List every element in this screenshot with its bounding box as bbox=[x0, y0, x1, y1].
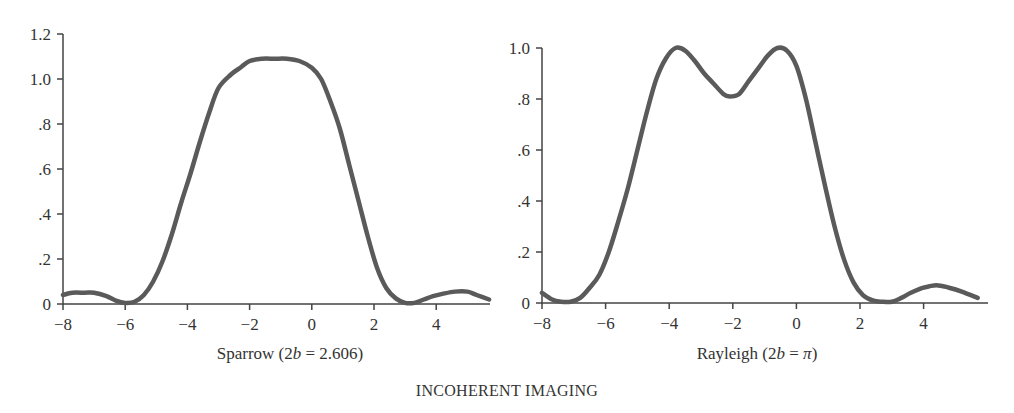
y-tick-label: 1.0 bbox=[30, 70, 51, 89]
x-tick-label: 0 bbox=[792, 314, 801, 333]
plot-caption: Rayleigh (2b = π) bbox=[697, 344, 818, 363]
x-tick-label: 4 bbox=[919, 314, 928, 333]
x-tick-label: −8 bbox=[533, 314, 551, 333]
axes bbox=[63, 34, 490, 304]
rayleigh-plot: 0.2.4.6.81.0−8−6−4−2024Rayleigh (2b = π) bbox=[509, 39, 988, 363]
sparrow-plot: 0.2.4.6.81.01.2−8−6−4−2024Sparrow (2b = … bbox=[30, 25, 490, 363]
y-tick-label: 1.0 bbox=[509, 39, 530, 58]
y-tick-label: 0 bbox=[522, 294, 531, 313]
axes bbox=[542, 48, 988, 303]
plot-caption: Sparrow (2b = 2.606) bbox=[217, 344, 364, 363]
y-tick-label: .4 bbox=[517, 192, 530, 211]
x-tick-label: 4 bbox=[432, 315, 441, 334]
intensity-curve bbox=[542, 48, 978, 303]
x-tick-label: 2 bbox=[370, 315, 379, 334]
y-tick-label: 0 bbox=[43, 295, 52, 314]
x-tick-label: −8 bbox=[54, 315, 72, 334]
x-tick-label: −6 bbox=[116, 315, 134, 334]
figure-title: INCOHERENT IMAGING bbox=[416, 382, 599, 399]
x-tick-label: −4 bbox=[178, 315, 197, 334]
x-tick-label: −6 bbox=[597, 314, 615, 333]
x-tick-label: −4 bbox=[660, 314, 679, 333]
intensity-curve bbox=[63, 59, 489, 304]
y-tick-label: .8 bbox=[38, 115, 51, 134]
y-tick-label: .2 bbox=[517, 243, 530, 262]
y-tick-label: .4 bbox=[38, 205, 51, 224]
y-tick-label: .6 bbox=[38, 160, 51, 179]
y-tick-label: .2 bbox=[38, 250, 51, 269]
figure: 0.2.4.6.81.01.2−8−6−4−2024Sparrow (2b = … bbox=[0, 0, 1014, 413]
x-tick-label: 2 bbox=[856, 314, 865, 333]
x-tick-label: −2 bbox=[724, 314, 742, 333]
x-tick-label: 0 bbox=[308, 315, 317, 334]
y-tick-label: 1.2 bbox=[30, 25, 51, 44]
y-tick-label: .8 bbox=[517, 90, 530, 109]
y-tick-label: .6 bbox=[517, 141, 530, 160]
x-tick-label: −2 bbox=[241, 315, 259, 334]
